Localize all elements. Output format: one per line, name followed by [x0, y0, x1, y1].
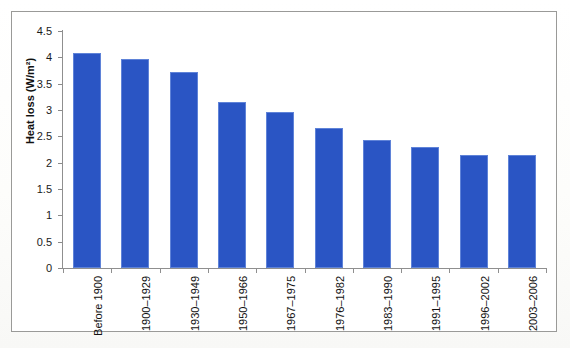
x-tick-mark: [256, 268, 257, 273]
bar-slot: [498, 31, 546, 268]
bar: [218, 102, 246, 268]
bar: [73, 53, 101, 268]
bar: [266, 112, 294, 268]
y-tick-label: 1.5: [37, 183, 52, 195]
x-tick-mark: [401, 268, 402, 273]
x-tick-mark: [208, 268, 209, 273]
y-tick-label: 2.5: [37, 130, 52, 142]
bar-slot: [401, 31, 449, 268]
bar: [315, 128, 343, 268]
y-tick-label: 4.5: [37, 25, 52, 37]
x-tick-mark: [160, 268, 161, 273]
x-tick-label: 1930–1949: [189, 276, 201, 331]
x-tick-mark: [546, 268, 547, 273]
y-tick-mark: [58, 163, 62, 164]
x-tick-label: 1950–1966: [237, 276, 249, 331]
x-tick-label: 1996–2002: [479, 276, 491, 331]
bar-slot: [449, 31, 497, 268]
bar: [508, 155, 536, 268]
bar: [411, 147, 439, 268]
y-tick-mark: [58, 31, 62, 32]
x-tick-mark: [111, 268, 112, 273]
bar-slot: [353, 31, 401, 268]
bar: [121, 59, 149, 268]
y-tick-mark: [58, 268, 62, 269]
y-tick-label: 0: [46, 262, 52, 274]
bar-slot: [256, 31, 304, 268]
y-tick-mark: [58, 189, 62, 190]
y-tick-mark: [58, 136, 62, 137]
y-tick-label: 0.5: [37, 236, 52, 248]
y-tick-label: 3.5: [37, 78, 52, 90]
bar: [170, 72, 198, 268]
bar-slot: [63, 31, 111, 268]
bar-slot: [160, 31, 208, 268]
x-tick-mark: [63, 268, 64, 273]
x-tick-label: 1983–1990: [382, 276, 394, 331]
x-tick-label: 1900–1929: [140, 276, 152, 331]
bar-slot: [208, 31, 256, 268]
y-tick-label: 2: [46, 157, 52, 169]
y-tick-mark: [58, 57, 62, 58]
x-tick-label: 1976–1982: [334, 276, 346, 331]
y-tick-mark: [58, 215, 62, 216]
chart-figure: Heat loss (W/m²) 00.511.522.533.544.5 Be…: [0, 0, 570, 348]
y-tick-label: 4: [46, 51, 52, 63]
bar-slot: [111, 31, 159, 268]
y-tick-label: 3: [46, 104, 52, 116]
bar-slot: [305, 31, 353, 268]
x-tick-label: 1967–1975: [285, 276, 297, 331]
y-axis-ticklabels: 00.511.522.533.544.5: [0, 0, 62, 348]
x-tick-mark: [449, 268, 450, 273]
x-tick-label: 2003–2006: [527, 276, 539, 331]
y-tick-mark: [58, 110, 62, 111]
plot-area: [63, 31, 546, 268]
y-tick-mark: [58, 242, 62, 243]
bar: [363, 140, 391, 269]
x-tick-mark: [498, 268, 499, 273]
bar: [460, 155, 488, 268]
x-tick-mark: [353, 268, 354, 273]
x-tick-label: 1991–1995: [430, 276, 442, 331]
x-tick-label: Before 1900: [92, 276, 104, 336]
x-tick-mark: [305, 268, 306, 273]
y-tick-mark: [58, 84, 62, 85]
y-tick-label: 1: [46, 209, 52, 221]
